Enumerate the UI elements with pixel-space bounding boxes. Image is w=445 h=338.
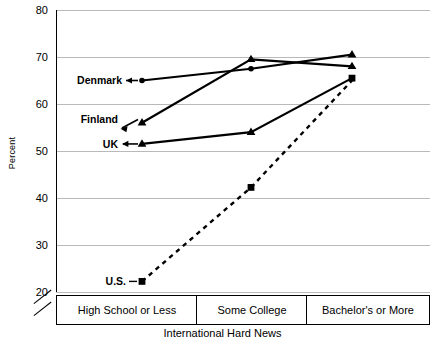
y-tick-label-70: 70 <box>18 52 48 62</box>
gridline-30 <box>56 245 430 246</box>
chart-title: International Hard News <box>0 327 445 338</box>
category-label-high-school: High School or Less <box>57 296 197 324</box>
series-label-finland: Finland <box>44 113 118 125</box>
y-tick-label-60: 60 <box>18 99 48 109</box>
y-axis-line <box>56 10 57 292</box>
gridline-40 <box>56 198 430 199</box>
plot-area <box>56 10 430 292</box>
series-label-us: U.S. <box>44 275 126 287</box>
gridline-70 <box>56 57 430 58</box>
gridline-60 <box>56 104 430 105</box>
category-band: High School or Less Some College Bachelo… <box>56 295 430 325</box>
gridline-80 <box>56 10 430 11</box>
series-label-denmark: Denmark <box>44 74 122 86</box>
series-label-uk: UK <box>44 138 118 150</box>
gridline-50 <box>56 151 430 152</box>
gridline-20 <box>56 292 430 293</box>
chart-container: Percent 80 70 60 50 40 30 20 <box>0 0 445 338</box>
y-axis-title: Percent <box>7 123 17 183</box>
y-tick-label-40: 40 <box>18 193 48 203</box>
category-label-some-college: Some College <box>197 296 307 324</box>
category-label-bachelors: Bachelor's or More <box>307 296 429 324</box>
y-tick-label-80: 80 <box>18 5 48 15</box>
y-tick-label-30: 30 <box>18 240 48 250</box>
